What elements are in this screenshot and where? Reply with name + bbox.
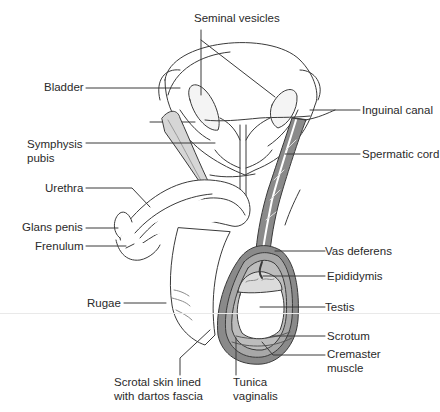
label-bladder: Bladder	[44, 80, 84, 94]
label-rugae: Rugae	[87, 296, 121, 310]
label-epididymis: Epididymis	[327, 269, 383, 283]
label-testis: Testis	[325, 300, 354, 314]
label-scrotal-skin-dartos: Scrotal skin lined with dartos fascia	[114, 375, 203, 403]
page-divider-line	[0, 313, 440, 314]
label-inguinal-canal: Inguinal canal	[362, 103, 433, 117]
label-symphysis-pubis: Symphysis pubis	[27, 137, 83, 165]
label-seminal-vesicles: Seminal vesicles	[194, 11, 280, 25]
label-scrotum: Scrotum	[327, 329, 370, 343]
label-tunica-vaginalis: Tunica vaginalis	[233, 375, 278, 403]
label-glans-penis: Glans penis	[22, 220, 83, 234]
label-cremaster-muscle: Cremaster muscle	[327, 347, 381, 375]
label-spermatic-cord: Spermatic cord	[362, 147, 439, 161]
label-urethra: Urethra	[45, 181, 83, 195]
label-vas-deferens: Vas deferens	[325, 244, 392, 258]
label-frenulum: Frenulum	[35, 239, 84, 253]
